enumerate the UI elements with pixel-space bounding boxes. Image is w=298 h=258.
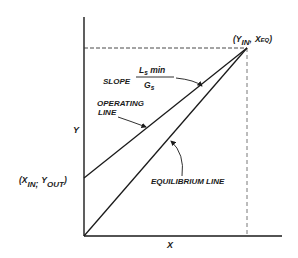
slope-label: SLOPE	[103, 77, 131, 86]
operating-leader-arrow	[118, 117, 146, 127]
absorption-operating-line-diagram: Y X (YIN,XEQ) (XIN;YOUT) SLOPE Ls min Gs…	[0, 0, 298, 258]
point-label-xin-yout: (XIN;YOUT)	[19, 175, 67, 189]
equilibrium-leader-arrow	[171, 141, 183, 176]
operating-line-label-2: LINE	[98, 108, 117, 117]
equilibrium-line-label: EQUILIBRIUM LINE	[151, 177, 225, 186]
y-axis-label: Y	[73, 125, 80, 135]
x-axis-label: X	[166, 240, 174, 250]
operating-line-label-1: OPERATING	[97, 99, 144, 108]
slope-leader-arrow	[176, 78, 202, 86]
slope-denominator: Gs	[144, 80, 155, 91]
point-label-yin-xeq: (YIN,XEQ)	[233, 34, 272, 47]
slope-numerator: Ls min	[139, 65, 165, 76]
